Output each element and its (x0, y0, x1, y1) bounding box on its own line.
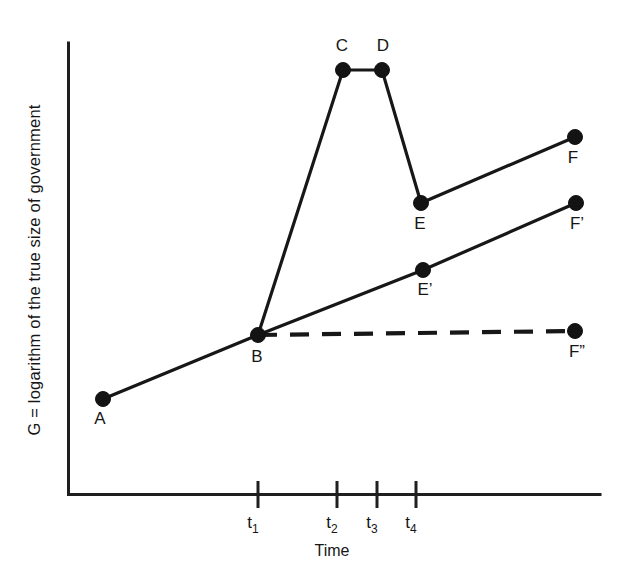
label-point-c: C (336, 36, 348, 55)
tick-label-t4-sub: 4 (410, 522, 417, 536)
axis-lines (69, 43, 601, 495)
label-point-b: B (251, 347, 262, 366)
tick-label-t1-sub: 1 (252, 522, 259, 536)
marker-point-e-prime (416, 263, 431, 278)
marker-point-d (375, 63, 390, 78)
marker-point-f-prime (569, 196, 584, 211)
chart-figure: G = logarithm of the true size of govern… (0, 0, 625, 574)
marker-point-b (251, 328, 266, 343)
label-point-d: D (377, 36, 389, 55)
data-point-markers (96, 63, 584, 407)
label-point-f-prime: F’ (570, 214, 584, 233)
label-point-f-double-prime: F” (569, 342, 585, 361)
tick-label-t2-sub: 2 (331, 522, 338, 536)
chart-svg: G = logarithm of the true size of govern… (0, 0, 625, 574)
series-flat-counterfactual-line (258, 331, 575, 335)
tick-label-t1: t1 (247, 513, 259, 536)
label-point-a: A (94, 409, 106, 428)
tick-label-t2: t2 (326, 513, 338, 536)
marker-point-c (336, 63, 351, 78)
label-point-e-prime: E’ (417, 280, 432, 299)
x-axis-tick-labels: t1 t2 t3 t4 (247, 513, 417, 536)
marker-point-a (96, 392, 111, 407)
marker-point-f (568, 130, 583, 145)
marker-point-f-double-prime (568, 324, 583, 339)
tick-label-t3-sub: 3 (371, 522, 378, 536)
label-point-e: E (414, 214, 425, 233)
y-axis-label: G = logarithm of the true size of govern… (25, 104, 43, 435)
tick-label-t4: t4 (405, 513, 417, 536)
label-point-f: F (568, 148, 578, 167)
y-axis-label-text: G = logarithm of the true size of govern… (25, 104, 43, 435)
marker-point-e (414, 196, 429, 211)
tick-label-t3: t3 (366, 513, 378, 536)
x-axis-label-text: Time (315, 542, 350, 559)
